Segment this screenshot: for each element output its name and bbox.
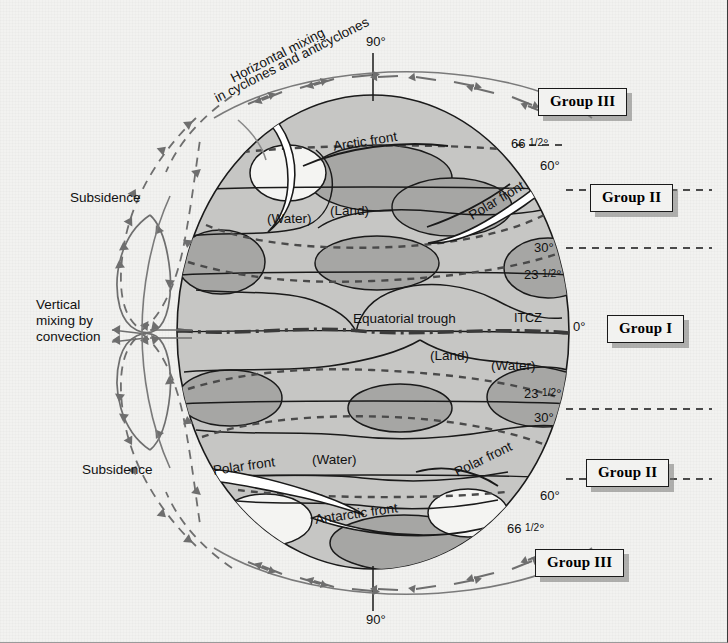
lat-label-tropic-capricorn: 23 1/2° bbox=[524, 386, 561, 401]
group-box-1-equator[interactable]: Group I bbox=[607, 315, 684, 343]
lat-label-antarctic-circle: 66 1/2° bbox=[507, 521, 544, 536]
label-vertical-mixing-line3: convection bbox=[36, 329, 101, 345]
diagram-canvas: 90° 66 1/2° 60° 30° 23 1/2° 0° 23 1/2° 3… bbox=[0, 0, 728, 643]
cell-upper-inner bbox=[117, 215, 156, 332]
lat-label-30-south: 30° bbox=[534, 410, 554, 425]
lat-label-tropic-cancer: 23 1/2° bbox=[524, 267, 561, 282]
lat-label-30-north: 30° bbox=[534, 240, 554, 255]
label-equatorial-trough: Equatorial trough bbox=[353, 311, 456, 327]
cell-lower-inner bbox=[117, 334, 156, 450]
group-box-2-north[interactable]: Group II bbox=[590, 184, 673, 212]
lat-label-south-pole: 90° bbox=[366, 612, 386, 627]
label-land-south: (Land) bbox=[430, 348, 469, 364]
group-box-3-north[interactable]: Group III bbox=[538, 88, 627, 116]
label-itcz: ITCZ bbox=[514, 311, 542, 326]
group-box-3-south[interactable]: Group III bbox=[535, 549, 624, 577]
lat-label-60-south: 60° bbox=[540, 488, 560, 503]
label-water-south-lower: (Water) bbox=[312, 452, 357, 468]
lat-label-equator: 0° bbox=[573, 319, 585, 334]
lat-label-arctic-circle: 66 1/2° bbox=[511, 136, 548, 151]
lat-label-60-north: 60° bbox=[540, 158, 560, 173]
label-subsidence-north: Subsidence bbox=[70, 190, 141, 206]
group-box-2-south[interactable]: Group II bbox=[586, 459, 669, 487]
label-land-north-upper: (Land) bbox=[330, 203, 369, 219]
label-vertical-mixing-line1: Vertical bbox=[36, 297, 80, 313]
label-water-north-upper: (Water) bbox=[267, 211, 312, 227]
lat-label-north-pole: 90° bbox=[366, 34, 386, 49]
label-vertical-mixing-line2: mixing by bbox=[36, 313, 93, 329]
label-water-south-right: (Water) bbox=[491, 358, 536, 374]
label-subsidence-south: Subsidence bbox=[82, 462, 153, 478]
